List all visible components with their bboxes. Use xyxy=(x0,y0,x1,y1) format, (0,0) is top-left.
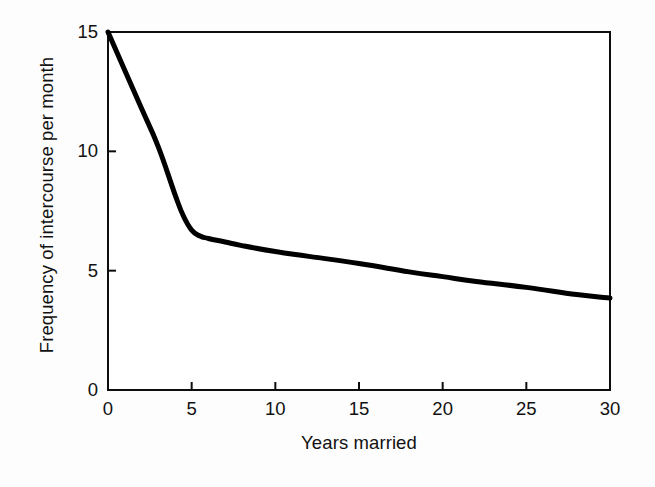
x-tick-label: 0 xyxy=(103,398,113,420)
y-tick-label: 5 xyxy=(88,260,98,282)
plot-area xyxy=(0,0,655,487)
x-tick-label: 30 xyxy=(600,398,621,420)
chart-figure: Frequency of intercourse per month Years… xyxy=(0,0,655,487)
y-tick-label: 15 xyxy=(77,21,98,43)
x-tick-label: 15 xyxy=(349,398,370,420)
x-tick-label: 10 xyxy=(265,398,286,420)
y-tick-label: 10 xyxy=(77,140,98,162)
y-tick-label: 0 xyxy=(88,379,98,401)
x-tick-label: 5 xyxy=(187,398,197,420)
x-tick-label: 20 xyxy=(432,398,453,420)
x-tick-label: 25 xyxy=(516,398,537,420)
